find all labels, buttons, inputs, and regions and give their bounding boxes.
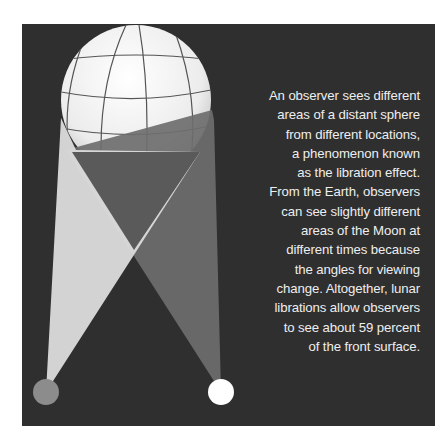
caption-line: areas of a distant sphere bbox=[240, 105, 420, 124]
caption-line: of the front surface. bbox=[240, 337, 420, 356]
caption-line: a phenomenon known bbox=[240, 144, 420, 163]
caption-line: areas of the Moon at bbox=[240, 221, 420, 240]
caption-line: to see about 59 percent bbox=[240, 318, 420, 337]
caption-line: librations allow observers bbox=[240, 298, 420, 317]
right-observer bbox=[208, 379, 234, 405]
caption-line: An observer sees different bbox=[240, 86, 420, 105]
caption: An observer sees different areas of a di… bbox=[240, 86, 420, 356]
caption-line: change. Altogether, lunar bbox=[240, 279, 420, 298]
caption-line: the angles for viewing bbox=[240, 260, 420, 279]
caption-line: From the Earth, observers bbox=[240, 182, 420, 201]
caption-line: as the libration effect. bbox=[240, 163, 420, 182]
caption-line: can see slightly different bbox=[240, 202, 420, 221]
caption-line: different times because bbox=[240, 240, 420, 259]
left-observer bbox=[33, 379, 59, 405]
caption-line: from different locations, bbox=[240, 125, 420, 144]
